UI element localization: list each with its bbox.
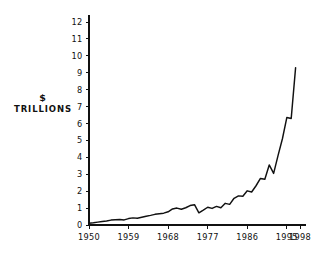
x-tick-label: 1968 [157, 232, 179, 242]
x-tick-label: 1986 [236, 232, 258, 242]
y-tick-label: 11 [71, 34, 82, 44]
y-tick-label: 0 [77, 220, 83, 230]
y-tick-label: 1 [77, 203, 83, 213]
series-line [89, 68, 296, 224]
y-tick-label: 12 [71, 17, 82, 27]
chart-container: $ TRILLIONS 0123456789101112 19501959196… [0, 0, 334, 261]
x-axis: 1950195919681977198619951998 [78, 225, 311, 242]
y-axis: 0123456789101112 [71, 15, 89, 230]
y-tick-label: 3 [77, 169, 83, 179]
x-tick-label: 1950 [78, 232, 100, 242]
x-tick-label: 1977 [197, 232, 219, 242]
x-tick-label: 1998 [289, 232, 311, 242]
y-tick-label: 6 [77, 119, 83, 129]
y-tick-label: 8 [77, 85, 83, 95]
y-tick-label: 7 [77, 102, 83, 112]
line-chart-plot: 0123456789101112 19501959196819771986199… [0, 0, 334, 261]
x-tick-label: 1959 [118, 232, 140, 242]
y-tick-label: 2 [77, 186, 83, 196]
y-tick-label: 9 [77, 68, 83, 78]
y-tick-label: 4 [77, 152, 83, 162]
data-series-group [89, 68, 296, 224]
y-tick-label: 5 [77, 135, 83, 145]
y-tick-label: 10 [71, 51, 82, 61]
